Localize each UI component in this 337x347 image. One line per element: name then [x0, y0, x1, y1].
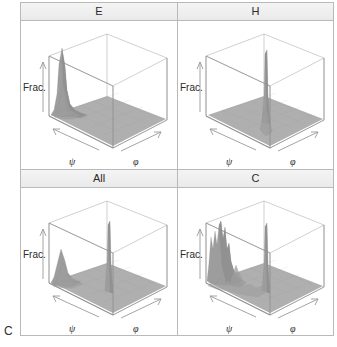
- panel-E: E: [21, 3, 177, 169]
- panel-H: H: [177, 3, 333, 169]
- panel-strip-E: E: [21, 3, 177, 21]
- panel-strip-H: H: [178, 3, 333, 21]
- plot-area-All: Frac. ψ φ: [21, 187, 177, 335]
- panel-title-All: All: [93, 173, 105, 184]
- axis-label-phi-E: φ: [133, 156, 139, 167]
- surface-plot-All: Frac. ψ φ: [21, 187, 177, 335]
- axis-label-psi-E: ψ: [69, 156, 76, 167]
- axis-label-frac-H: Frac.: [180, 82, 203, 93]
- panel-strip-C: C: [178, 170, 333, 188]
- axis-label-phi-All: φ: [133, 323, 139, 334]
- figure-panel-label: C: [4, 324, 13, 338]
- panel-title-E: E: [95, 6, 102, 17]
- plot-area-E: Frac. ψ φ: [21, 20, 177, 169]
- axis-label-psi-All: ψ: [69, 323, 76, 334]
- surface-plot-C: Frac. ψ φ: [178, 187, 334, 335]
- plot-area-C: Frac. ψ φ: [178, 187, 333, 335]
- panel-All: All: [21, 169, 177, 335]
- figure-root: C E: [0, 0, 337, 347]
- axis-label-frac-E: Frac.: [23, 82, 46, 93]
- axis-label-psi-H: ψ: [226, 156, 233, 167]
- surface-plot-E: Frac. ψ φ: [21, 20, 177, 168]
- panel-lattice: E: [20, 2, 334, 336]
- panel-C: C: [177, 169, 333, 335]
- axis-label-phi-C: φ: [290, 323, 296, 334]
- panel-title-H: H: [252, 6, 260, 17]
- panel-title-C: C: [252, 173, 260, 184]
- surface-plot-H: Frac. ψ φ: [178, 20, 334, 168]
- axis-label-phi-H: φ: [290, 156, 296, 167]
- panel-strip-All: All: [21, 170, 177, 188]
- axis-label-psi-C: ψ: [226, 323, 233, 334]
- axis-label-frac-All: Frac.: [23, 249, 46, 260]
- axis-label-frac-C: Frac.: [180, 249, 203, 260]
- plot-area-H: Frac. ψ φ: [178, 20, 333, 169]
